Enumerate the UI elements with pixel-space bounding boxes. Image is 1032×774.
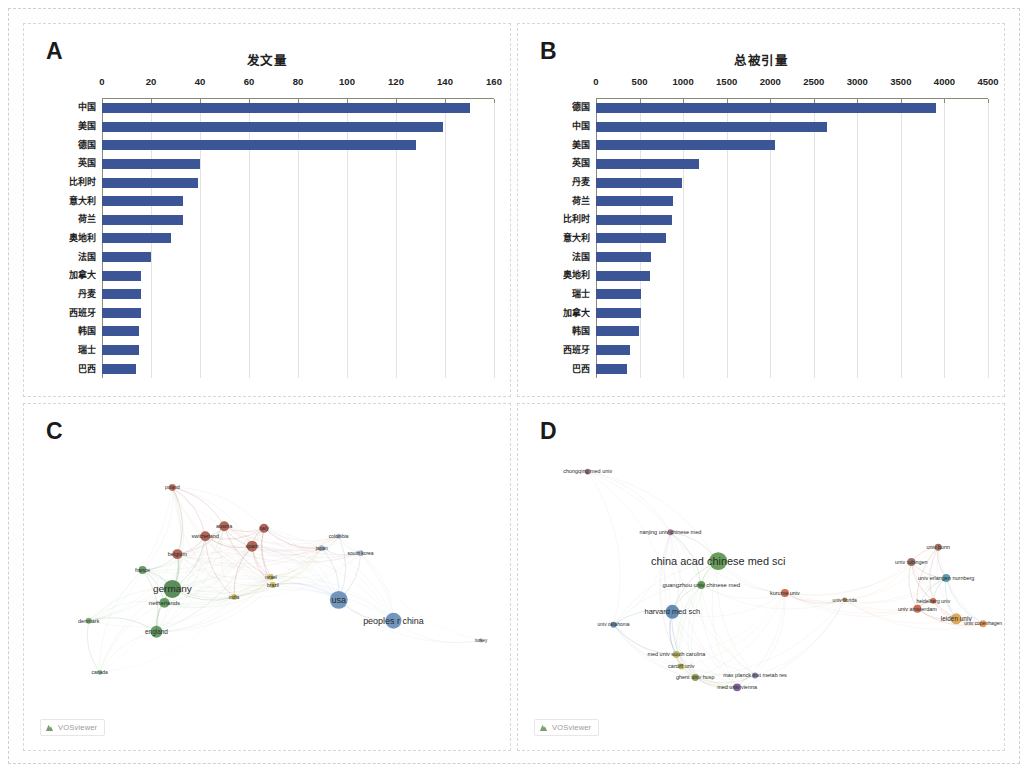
network-node[interactable]: univ erlangen nurnberg <box>918 574 974 582</box>
network-node[interactable]: japan <box>315 545 328 551</box>
network-node[interactable]: univ amsterdam <box>898 605 937 613</box>
bar[interactable] <box>596 178 682 188</box>
bar[interactable] <box>596 326 639 336</box>
bar-row <box>596 308 988 318</box>
network-node[interactable]: univ tubingen <box>895 558 928 566</box>
bar-row <box>596 345 988 355</box>
panel-a: A 发文量 中国美国德国英国比利时意大利荷兰奥地利法国加拿大丹麦西班牙韩国瑞士巴… <box>23 23 511 397</box>
bar-row <box>596 289 988 299</box>
bar[interactable] <box>596 271 650 281</box>
bar[interactable] <box>596 159 699 169</box>
bar[interactable] <box>102 345 139 355</box>
panel-b-category-axis: 德国中国美国英国丹麦荷兰比利时意大利法国奥地利瑞士加拿大韩国西班牙巴西 <box>548 76 594 382</box>
panel-a-title: 发文量 <box>24 50 510 69</box>
network-node[interactable]: cardiff univ <box>668 663 695 669</box>
network-node[interactable]: belgium <box>168 549 188 559</box>
bar[interactable] <box>596 308 641 318</box>
bar-row <box>596 178 988 188</box>
network-node[interactable]: max planck inst metab res <box>723 672 787 678</box>
bar[interactable] <box>596 103 936 113</box>
bar[interactable] <box>102 159 200 169</box>
panel-d: D china acad chinese med sciguangzhou un… <box>517 403 1005 751</box>
bar[interactable] <box>102 252 151 262</box>
bar[interactable] <box>102 233 171 243</box>
network-node[interactable]: brazil <box>267 582 279 588</box>
network-node-label: usa <box>331 595 345 605</box>
bar[interactable] <box>102 326 139 336</box>
network-node[interactable]: israel <box>265 574 277 580</box>
x-tick-label: 40 <box>195 76 206 87</box>
network-node[interactable]: nanjing univ chinese med <box>639 529 701 535</box>
network-node[interactable]: india <box>229 594 240 600</box>
network-node[interactable]: univ copenhagen <box>964 620 1002 627</box>
bar[interactable] <box>596 364 627 374</box>
network-node[interactable]: colombia <box>329 534 349 539</box>
network-node-label: guangzhou univ chinese med <box>662 582 740 588</box>
bar[interactable] <box>596 196 673 206</box>
network-node[interactable]: germany <box>153 580 192 598</box>
network-node[interactable]: china acad chinese med sci <box>651 552 785 570</box>
network-node[interactable]: canada <box>92 670 109 675</box>
network-node-label: med univ vienna <box>717 684 758 690</box>
network-node[interactable]: med univ vienna <box>717 683 758 691</box>
bar[interactable] <box>102 178 198 188</box>
network-node-label: nanjing univ chinese med <box>639 529 701 535</box>
network-node[interactable]: guangzhou univ chinese med <box>662 581 740 589</box>
x-tick-label: 20 <box>146 76 157 87</box>
panel-d-network-map[interactable]: china acad chinese med sciguangzhou univ… <box>518 404 1004 750</box>
network-node[interactable]: south korea <box>348 550 374 556</box>
bar-row <box>596 326 988 336</box>
network-node[interactable]: switzerland <box>192 531 219 541</box>
network-node[interactable]: denmark <box>78 618 100 624</box>
category-label: 德国 <box>54 140 100 150</box>
network-node[interactable]: ghent univ hosp <box>676 674 715 681</box>
network-link <box>172 488 321 549</box>
x-tick-label: 2500 <box>803 76 824 87</box>
network-node[interactable]: heidelberg univ <box>916 598 950 604</box>
bar[interactable] <box>596 289 641 299</box>
network-node[interactable]: usa <box>330 591 348 609</box>
panel-grid: A 发文量 中国美国德国英国比利时意大利荷兰奥地利法国加拿大丹麦西班牙韩国瑞士巴… <box>23 23 1005 749</box>
bar[interactable] <box>102 289 141 299</box>
network-node[interactable]: univ florida <box>833 597 857 602</box>
network-node[interactable]: univ bonn <box>926 544 950 551</box>
network-node[interactable]: univ oklahoma <box>598 622 630 628</box>
bar[interactable] <box>102 271 141 281</box>
network-link <box>156 526 224 631</box>
category-label: 丹麦 <box>548 177 594 187</box>
bar[interactable] <box>102 103 470 113</box>
bar[interactable] <box>596 122 827 132</box>
x-tick-label: 100 <box>339 76 355 87</box>
bar[interactable] <box>596 345 630 355</box>
bar[interactable] <box>102 196 183 206</box>
network-node-label: univ copenhagen <box>964 621 1002 626</box>
network-node[interactable]: med univ south carolina <box>647 651 706 658</box>
tickmark <box>494 99 495 103</box>
category-label: 奥地利 <box>548 270 594 280</box>
bar[interactable] <box>596 252 651 262</box>
network-node[interactable]: harvard med sch <box>645 605 701 619</box>
bar[interactable] <box>102 122 443 132</box>
panel-b-bars <box>596 99 988 378</box>
bar[interactable] <box>102 215 183 225</box>
network-node[interactable]: france <box>135 566 150 574</box>
bar[interactable] <box>102 140 416 150</box>
network-node[interactable]: england <box>145 626 168 638</box>
network-node[interactable]: turkey <box>475 638 488 643</box>
panel-c-network-map[interactable]: usapeoples r chinagermanynetherlandsengl… <box>24 404 510 750</box>
network-link <box>588 472 671 533</box>
network-node[interactable]: peoples r china <box>363 613 424 629</box>
bar[interactable] <box>102 364 136 374</box>
x-tick-label: 1000 <box>673 76 694 87</box>
bar[interactable] <box>102 308 141 318</box>
network-node[interactable]: chongqing med univ <box>563 468 612 474</box>
x-tick-label: 3000 <box>847 76 868 87</box>
bar[interactable] <box>596 233 666 243</box>
network-link <box>172 488 182 555</box>
network-node[interactable]: poland <box>165 484 180 491</box>
network-node-label: china acad chinese med sci <box>651 555 785 567</box>
bar[interactable] <box>596 140 775 150</box>
network-node[interactable]: netherlands <box>149 598 180 608</box>
network-node[interactable]: kurume univ <box>770 589 800 597</box>
bar[interactable] <box>596 215 672 225</box>
